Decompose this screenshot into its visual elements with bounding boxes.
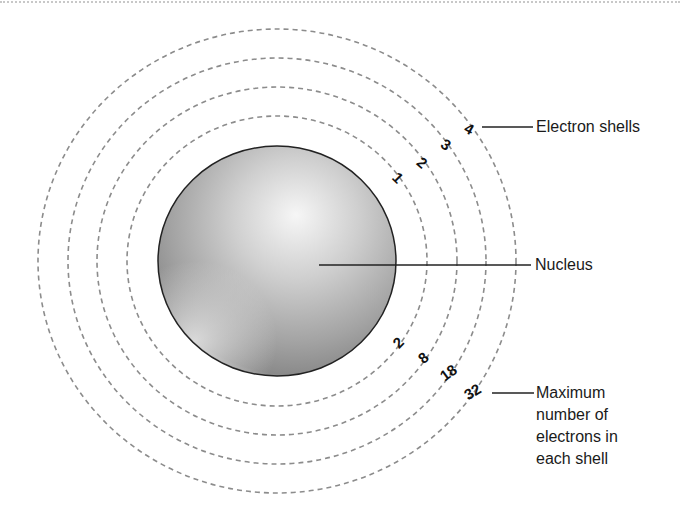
nucleus-label: Nucleus	[535, 254, 593, 276]
electron-shells-label: Electron shells	[536, 116, 640, 138]
max-electrons-label: Maximum number of electrons in each shel…	[536, 382, 656, 470]
nucleus	[158, 146, 396, 376]
